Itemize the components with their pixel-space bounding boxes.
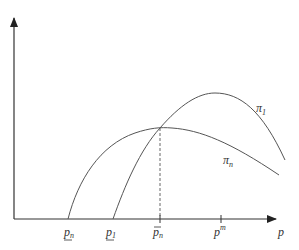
- label-pi-n: πn: [223, 153, 233, 169]
- x-axis-label: p: [277, 225, 284, 239]
- label-pi-1: π1: [256, 101, 266, 117]
- diagram-canvas: π1 πn pn p1 pn pm p: [0, 0, 299, 250]
- label-p-n-under: pn: [63, 225, 74, 240]
- label-p-m: pm: [213, 223, 226, 239]
- curve-pi-n: [68, 128, 279, 219]
- label-p-1-under: p1: [105, 225, 116, 240]
- label-p-n-bar: pn: [152, 225, 163, 240]
